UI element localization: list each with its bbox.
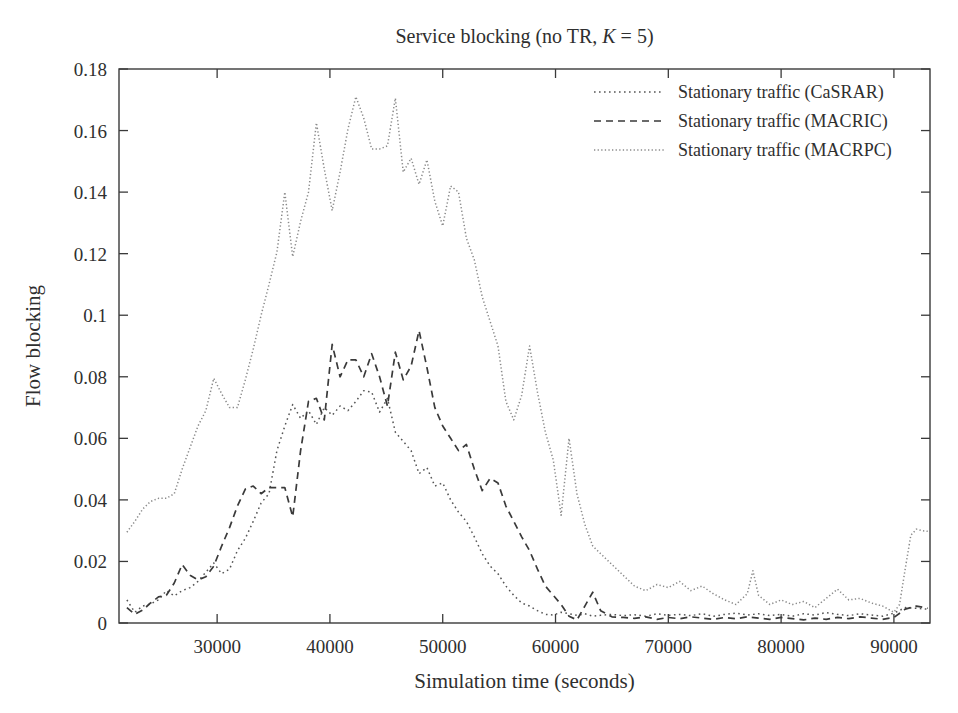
- series-line-2: [127, 97, 928, 613]
- y-tick-label: 0.14: [74, 182, 108, 203]
- legend: Stationary traffic (CaSRAR)Stationary tr…: [594, 82, 892, 161]
- series-line-0: [127, 391, 928, 617]
- chart-figure: 00.020.040.060.080.10.120.140.160.183000…: [0, 0, 958, 713]
- title-part: = 5): [616, 25, 654, 48]
- y-tick-label: 0.06: [74, 428, 107, 449]
- y-tick-label: 0.18: [74, 59, 107, 80]
- legend-label-1: Stationary traffic (MACRIC): [678, 111, 888, 132]
- x-tick-label: 60000: [532, 636, 580, 657]
- y-tick-label: 0.04: [74, 490, 108, 511]
- y-tick-label: 0: [98, 613, 108, 634]
- y-tick-label: 0.12: [74, 244, 107, 265]
- x-tick-label: 70000: [645, 636, 693, 657]
- chart-title: Service blocking (no TR, K = 5): [395, 25, 653, 48]
- y-tick-label: 0.1: [83, 305, 107, 326]
- x-tick-label: 90000: [870, 636, 918, 657]
- x-tick-label: 50000: [419, 636, 467, 657]
- series-group: [127, 97, 928, 620]
- line-chart-svg: 00.020.040.060.080.10.120.140.160.183000…: [0, 0, 958, 713]
- x-tick-label: 40000: [306, 636, 354, 657]
- y-tick-label: 0.08: [74, 367, 107, 388]
- x-tick-label: 80000: [757, 636, 805, 657]
- x-axis-title: Simulation time (seconds): [414, 669, 634, 693]
- x-tick-label: 30000: [193, 636, 241, 657]
- y-tick-label: 0.02: [74, 551, 107, 572]
- title-part: Service blocking (no TR,: [395, 25, 602, 48]
- legend-label-0: Stationary traffic (CaSRAR): [678, 82, 884, 103]
- legend-label-2: Stationary traffic (MACRPC): [678, 140, 892, 161]
- y-tick-label: 0.16: [74, 121, 107, 142]
- y-axis-title: Flow blocking: [21, 285, 45, 407]
